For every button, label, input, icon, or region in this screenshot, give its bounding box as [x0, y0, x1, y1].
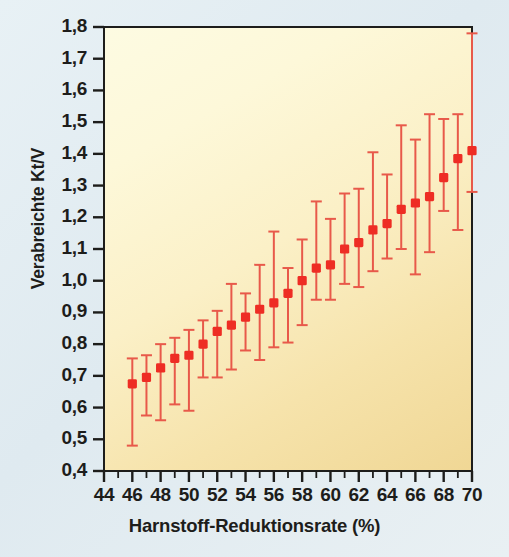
x-axis-title: Harnstoff-Reduktionsrate (%) [0, 515, 509, 537]
y-axis-tick-label: 0,6 [41, 396, 87, 418]
y-axis-tick-label: 0,5 [41, 427, 87, 449]
y-axis-tick-label: 1,7 [41, 47, 87, 69]
y-axis-tick-label: 0,7 [41, 364, 87, 386]
y-axis-tick-label: 0,8 [41, 332, 87, 354]
x-axis-tick-label: 70 [455, 484, 489, 506]
y-axis-tick-label: 0,4 [41, 459, 87, 481]
y-axis-tick-label: 1,6 [41, 78, 87, 100]
y-axis-title: Verabreichte Kt/V [28, 124, 49, 314]
plot-area [103, 26, 473, 472]
y-axis-tick-label: 1,8 [41, 15, 87, 37]
chart-figure: 0,40,50,60,70,80,91,01,11,21,31,41,51,61… [0, 0, 509, 557]
